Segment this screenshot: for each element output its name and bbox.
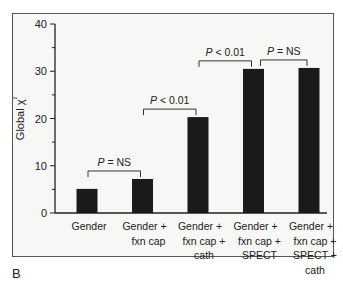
x-tick-label: Gender +fxn cap +SPECT [233, 220, 280, 261]
comparison-bracket [88, 171, 141, 177]
y-tick-label: 20 [35, 113, 47, 125]
x-tick-label: Gender +fxn cap +SPECT +cath [289, 220, 337, 276]
comparison-label: P = NS [97, 156, 131, 168]
y-tick-label: 40 [35, 18, 47, 30]
bar [188, 117, 209, 213]
comparison-label: P < 0.01 [206, 46, 246, 58]
panel-label: B [12, 266, 21, 281]
bar [299, 68, 320, 213]
x-tick-label: Gender +fxn cap +cath [178, 220, 225, 261]
x-tick-label: Gender +fxn cap [122, 220, 166, 247]
bar-chart: 010203040Global χ²GenderGender +fxn capG… [0, 0, 343, 289]
bar [132, 179, 153, 213]
comparison-bracket [199, 61, 252, 67]
bar [77, 189, 98, 213]
y-tick-label: 30 [35, 65, 47, 77]
y-tick-label: 10 [35, 160, 47, 172]
bar [243, 69, 264, 213]
comparison-label: P < 0.01 [150, 94, 190, 106]
comparison-label: P = NS [267, 45, 301, 57]
y-tick-label: 0 [41, 207, 47, 219]
comparison-bracket [261, 60, 308, 66]
y-axis-label: Global χ² [12, 97, 26, 141]
x-tick-label: Gender [71, 220, 107, 232]
comparison-bracket [144, 109, 197, 115]
